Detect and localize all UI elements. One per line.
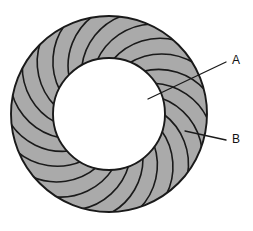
inner-hub <box>54 59 165 170</box>
annular-vane-diagram: AB <box>0 0 253 231</box>
callout-label-a: A <box>232 53 240 67</box>
figure-root: AB <box>0 0 253 231</box>
callout-label-b: B <box>232 132 240 146</box>
